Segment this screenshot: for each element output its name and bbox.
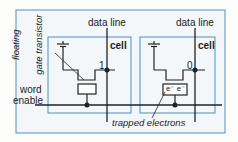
- data-line-label-1: data line: [88, 18, 126, 28]
- bit-value-1: 1: [99, 61, 105, 71]
- cell-label-1: cell: [110, 41, 127, 51]
- cell-label-2: cell: [198, 41, 215, 51]
- junction-dot: [173, 103, 178, 108]
- junction-dot: [105, 68, 110, 73]
- floating-label: floating: [11, 21, 21, 69]
- junction-dot: [193, 68, 198, 73]
- bit-value-0: 0: [187, 61, 193, 71]
- word-label: word: [20, 85, 42, 95]
- junction-dot: [85, 103, 90, 108]
- electrons-symbol: e⁻ e⁻: [166, 85, 185, 93]
- enable-label: enable: [13, 96, 43, 106]
- data-line-label-2: data line: [176, 18, 214, 28]
- trapped-electrons-label: trapped electrons: [112, 118, 185, 128]
- gate-transistor-label: gate transistor: [34, 9, 44, 81]
